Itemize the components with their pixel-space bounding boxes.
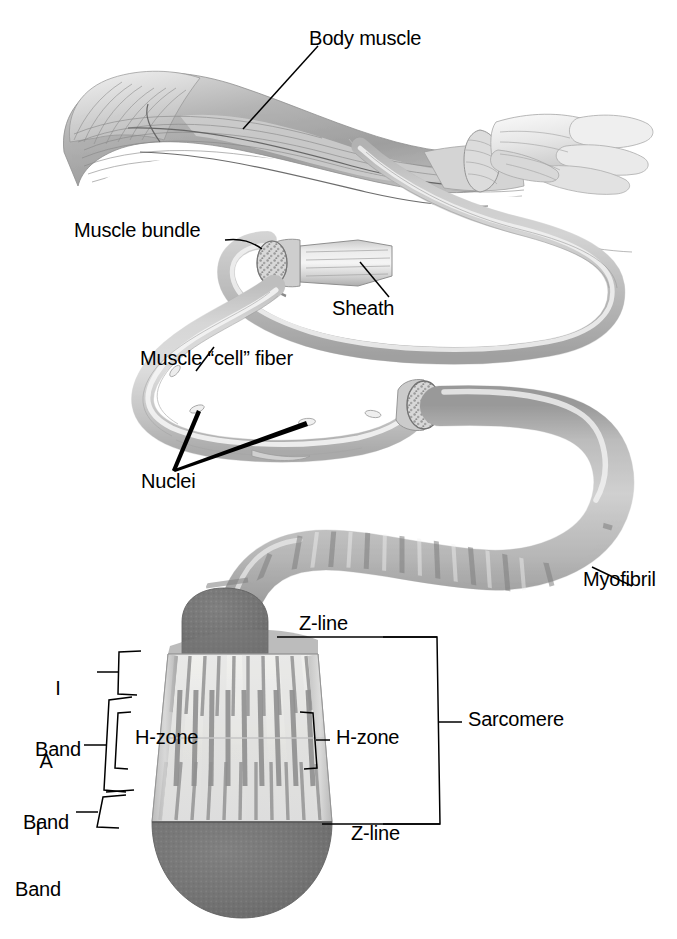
label-i-band-bottom-line2: Band: [2, 879, 74, 899]
label-i-band-bottom-line1: I: [2, 818, 74, 838]
diagram-canvas: Body muscle Muscle bundle Sheath Muscle …: [0, 0, 677, 939]
label-i-band-bottom: I Band: [2, 777, 74, 939]
muscle-structure-illustration: [0, 0, 677, 939]
label-z-line-top: Z-line: [299, 613, 348, 635]
label-muscle-cell-fiber: Muscle “cell” fiber: [140, 348, 293, 370]
label-nuclei: Nuclei: [141, 471, 195, 493]
nuclei-ovals: [168, 364, 382, 427]
label-sarcomere: Sarcomere: [468, 709, 564, 731]
bracket-i-band-bottom: [97, 795, 126, 828]
nucleus: [365, 409, 382, 418]
label-muscle-bundle: Muscle bundle: [74, 220, 200, 242]
label-myofibril: Myofibril: [583, 569, 656, 591]
label-sheath: Sheath: [332, 298, 394, 320]
label-body-muscle: Body muscle: [309, 28, 421, 50]
bracket-h-zone-left: [115, 712, 131, 769]
label-h-zone-right: H-zone: [336, 727, 399, 749]
label-h-zone-left: H-zone: [135, 727, 198, 749]
label-i-band-top-line1: I: [22, 678, 94, 698]
bracket-i-band-top: [118, 651, 141, 695]
label-a-band-line1: A: [10, 751, 82, 771]
bracket-a-band: [104, 697, 132, 792]
sheath-sleeve: [300, 240, 392, 286]
label-z-line-bottom: Z-line: [351, 823, 400, 845]
